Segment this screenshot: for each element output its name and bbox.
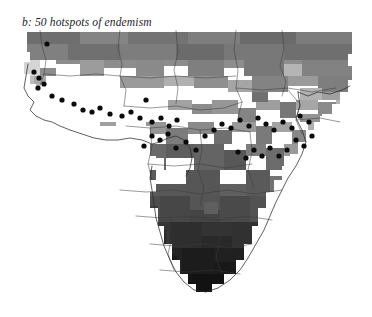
hotspot-dot	[165, 131, 170, 136]
hotspot-dot	[235, 149, 240, 154]
hotspot-dot	[173, 145, 178, 150]
hotspot-dot	[259, 153, 264, 158]
hotspot-dot	[36, 75, 41, 80]
hotspot-dot	[41, 81, 46, 86]
hotspot-dot	[276, 153, 281, 158]
hotspot-dot	[228, 125, 233, 130]
hotspot-dot	[59, 97, 64, 102]
choropleth-cells	[16, 30, 354, 317]
hotspot-dot	[271, 127, 276, 132]
hotspot-dot	[97, 105, 102, 110]
hotspot-dot	[128, 109, 133, 114]
hotspot-dot	[306, 119, 311, 124]
hotspot-dot	[246, 123, 251, 128]
figure-panel: b: 50 hotspots of endemism	[0, 0, 372, 317]
hotspot-dot	[143, 97, 148, 102]
page-title: b: 50 hotspots of endemism	[22, 15, 152, 29]
hotspot-dot	[211, 127, 216, 132]
hotspot-dot	[243, 155, 248, 160]
hotspot-dot	[284, 147, 289, 152]
hotspot-dot	[297, 113, 302, 118]
hotspot-dot	[158, 115, 163, 120]
hotspot-dot	[137, 115, 142, 120]
hotspot-dot	[183, 139, 188, 144]
hotspot-dot	[80, 107, 85, 112]
hotspot-dot	[44, 41, 49, 46]
hotspot-dot	[309, 133, 314, 138]
hotspot-dot	[255, 115, 260, 120]
hotspot-dot	[71, 101, 76, 106]
hotspot-dot	[237, 117, 242, 122]
hotspot-dot	[149, 133, 154, 138]
hotspot-dot	[141, 143, 146, 148]
hotspot-dot	[202, 133, 207, 138]
hotspot-dot	[251, 147, 256, 152]
africa-choropleth-map	[0, 30, 372, 317]
africa-map-container	[0, 30, 372, 317]
hotspot-dot	[157, 137, 162, 142]
hotspot-dot	[193, 147, 198, 152]
hotspot-dot	[289, 125, 294, 130]
hotspot-dot	[35, 85, 40, 90]
hotspot-dot	[149, 119, 154, 124]
hotspot-dot	[280, 119, 285, 124]
hotspot-dot	[166, 123, 171, 128]
hotspot-dot	[89, 109, 94, 114]
hotspot-dot	[293, 137, 298, 142]
hotspot-dot	[219, 121, 224, 126]
hotspot-dot	[49, 93, 54, 98]
hotspot-dot	[301, 143, 306, 148]
hotspot-dot	[107, 111, 112, 116]
hotspot-dot	[267, 145, 272, 150]
hotspot-dot	[31, 69, 36, 74]
hotspot-dot	[174, 117, 179, 122]
hotspot-dot	[263, 121, 268, 126]
hotspot-dot	[119, 113, 124, 118]
